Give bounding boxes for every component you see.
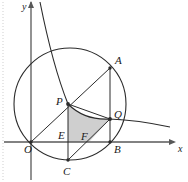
- x-axis-arrowhead: [169, 139, 176, 145]
- point-marker-b: [108, 140, 111, 143]
- hyperbola-curve: [40, 2, 170, 127]
- point-marker-p: [66, 102, 70, 106]
- label-point-b: B: [114, 143, 121, 155]
- label-point-e: E: [57, 129, 65, 141]
- label-x-axis: x: [177, 143, 183, 154]
- label-y-axis: y: [21, 1, 27, 12]
- y-axis-arrowhead: [28, 1, 34, 8]
- point-marker-c: [66, 158, 69, 161]
- label-point-c: C: [63, 165, 71, 177]
- label-point-o: O: [24, 143, 32, 155]
- point-marker-a: [108, 66, 111, 69]
- label-point-q: Q: [114, 108, 122, 120]
- label-point-p: P: [55, 95, 63, 107]
- geometry-canvas: O A B C P Q E F x y: [0, 0, 188, 182]
- point-marker-q: [108, 117, 112, 121]
- geometry-figure: O A B C P Q E F x y: [0, 0, 188, 182]
- label-point-f: F: [80, 130, 88, 142]
- label-point-a: A: [114, 54, 122, 66]
